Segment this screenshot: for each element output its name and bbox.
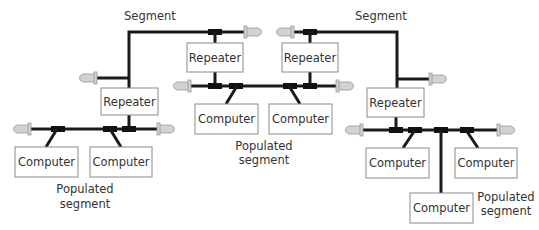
terminator-icon	[157, 123, 175, 135]
svg-text:Computer: Computer	[198, 112, 255, 126]
svg-text:Computer: Computer	[369, 156, 426, 170]
repeater-center-right: Repeater	[282, 43, 338, 72]
t-connector-icon	[51, 126, 65, 132]
svg-text:Repeater: Repeater	[103, 95, 156, 109]
svg-text:Computer: Computer	[18, 155, 75, 169]
terminator-icon	[244, 26, 262, 38]
populated-label-left-line2: segment	[60, 197, 111, 211]
repeater-left: Repeater	[101, 88, 158, 115]
terminator-icon	[80, 72, 98, 84]
t-connector-icon	[208, 83, 222, 89]
network-diagram: Segment Segment	[0, 0, 539, 230]
populated-label-center-line1: Populated	[235, 139, 292, 153]
t-connector-icon	[389, 127, 403, 133]
terminator-icon	[429, 73, 447, 85]
segment-label-left: Segment	[124, 9, 176, 23]
terminator-icon	[497, 124, 515, 136]
populated-label-center-line2: segment	[239, 153, 290, 167]
svg-text:Computer: Computer	[272, 112, 329, 126]
populated-label-right-line1: Populated	[477, 190, 534, 204]
svg-text:Computer: Computer	[413, 201, 470, 215]
t-connector-icon	[122, 126, 136, 132]
terminator-icon	[174, 80, 192, 92]
computer-right-1: Computer	[366, 148, 429, 178]
svg-text:Computer: Computer	[457, 156, 514, 170]
t-connector-icon	[303, 83, 317, 89]
repeater-center-left: Repeater	[187, 43, 243, 72]
terminator-icon	[336, 80, 354, 92]
repeater-right: Repeater	[367, 88, 424, 117]
computer-center-2: Computer	[269, 104, 332, 134]
populated-label-left-line1: Populated	[56, 182, 113, 196]
populated-label-right-line2: segment	[481, 204, 532, 218]
computer-right-2: Computer	[455, 148, 517, 178]
computer-center-1: Computer	[195, 104, 258, 134]
svg-text:Repeater: Repeater	[284, 51, 337, 65]
computer-left-2: Computer	[90, 147, 152, 177]
svg-text:Repeater: Repeater	[189, 51, 242, 65]
segment-left-populated	[14, 115, 175, 147]
svg-text:Repeater: Repeater	[369, 96, 422, 110]
terminator-icon	[346, 124, 364, 136]
segment-center-populated	[174, 72, 354, 104]
segment-label-right: Segment	[355, 9, 407, 23]
computer-left-1: Computer	[15, 147, 78, 177]
computer-right-3: Computer	[410, 193, 473, 223]
terminator-icon	[277, 26, 295, 38]
terminator-icon	[14, 123, 32, 135]
svg-text:Computer: Computer	[92, 155, 149, 169]
